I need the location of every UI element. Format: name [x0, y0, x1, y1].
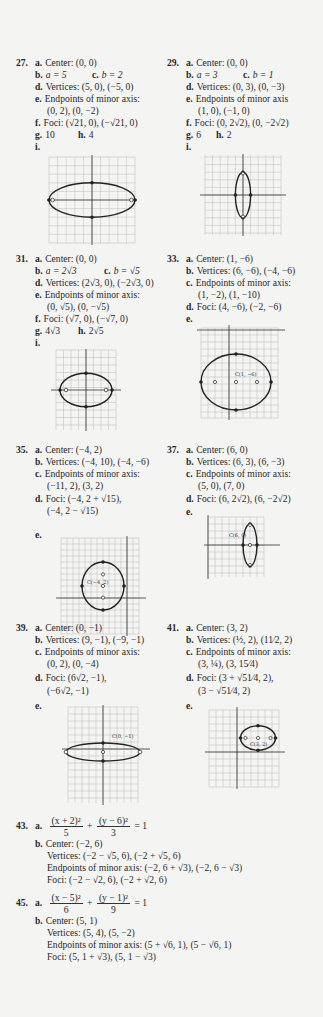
- problem-number: 33.: [167, 253, 179, 265]
- part-d-second: (−6√2, −1): [47, 685, 89, 697]
- part-h: h.4: [78, 129, 94, 141]
- problem-number: 27.: [16, 57, 28, 69]
- vertices: Vertices: (−2 − √5, 6), (−2 + √5, 6): [47, 850, 181, 862]
- part-f: f.Foci: (√7, 0), (−√7, 0): [35, 313, 128, 325]
- part-d: d.Vertices: (5, 0), (−5, 0): [35, 81, 133, 93]
- part-b: b.Vertices: (−4, 10), (−4, −6): [35, 456, 149, 468]
- minor-axis-endpoints: Endpoints of minor axis: (5 + √6, 1), (5…: [47, 939, 231, 951]
- part-a: a.Center: (0, −1): [35, 622, 102, 634]
- part-e: e.: [186, 700, 196, 712]
- part-d: d.Vertices: (2√3, 0), (−2√3, 0): [35, 277, 154, 289]
- problem-43: 43. a. (x + 2)²5 + (y − 6)²3 = 1 b.Cente…: [16, 815, 316, 895]
- svg-text:C(1, −6): C(1, −6): [235, 371, 257, 377]
- problem-31: 31. a.Center: (0, 0) b.a = 2√3 c.b = √5 …: [16, 253, 166, 443]
- part-c: c.Endpoints of minor axis:: [186, 468, 291, 480]
- part-d: d.Foci: (6√2, −1),: [35, 672, 107, 684]
- part-e: e.: [35, 529, 45, 541]
- fraction-y: (y − 6)²3: [97, 815, 130, 838]
- problem-number: 45.: [16, 897, 28, 909]
- fraction-y: (y − 1)²9: [97, 892, 130, 915]
- problem-33: 33. a.Center: (1, −6) b.Vertices: (6, −6…: [167, 253, 323, 443]
- part-c: c.Endpoints of minor axis:: [35, 468, 140, 480]
- part-b: b.Vertices: (6, 3), (6, −3): [186, 456, 284, 468]
- ellipse-graph-33: C(1, −6): [197, 325, 287, 420]
- problem-number: 31.: [16, 253, 28, 265]
- part-b: b.Center: (−2, 6): [35, 838, 103, 850]
- part-d: d.Vertices: (0, 3), (0, −3): [186, 81, 284, 93]
- problem-29: 29. a.Center: (0, 0) b.a = 3 c.b = 1 d.V…: [167, 57, 323, 267]
- part-b: b.a = 3: [186, 69, 218, 81]
- part-a: a.Center: (6, 0): [186, 444, 248, 456]
- part-a: a.Center: (0, 0): [35, 253, 97, 265]
- foci: Foci: (−2 − √2, 6), (−2 + √2, 6): [47, 874, 167, 886]
- fraction-x: (x − 5)²6: [50, 892, 83, 915]
- part-d-second: (3 − √51⁄4, 2): [198, 685, 250, 697]
- part-e: e.Endpoints of minor axis:: [35, 289, 140, 301]
- part-c: c.Endpoints of minor axis:: [186, 646, 291, 658]
- part-a-equation: a. (x + 2)²5 + (y − 6)²3 = 1: [35, 815, 147, 838]
- part-c: c.b = 2: [92, 69, 123, 81]
- ellipse-graph-31: [51, 349, 121, 431]
- foci: Foci: (5, 1 + √3), (5, 1 − √3): [47, 951, 156, 963]
- problem-39: 39. a.Center: (0, −1) b.Vertices: (9, −1…: [16, 622, 166, 822]
- part-d: d.Foci: (−4, 2 + √15),: [35, 493, 122, 505]
- part-i: i.: [186, 141, 194, 153]
- problem-45: 45. a. (x − 5)²6 + (y − 1)²9 = 1 b.Cente…: [16, 892, 316, 972]
- ellipse-graph-27: [46, 154, 138, 246]
- part-e: e.: [35, 700, 45, 712]
- part-a: a.Center: (−4, 2): [35, 444, 102, 456]
- part-b: b.Vertices: (6, −6), (−4, −6): [186, 265, 295, 277]
- part-d: d.Foci: (6, 2√2), (6, −2√2): [186, 493, 291, 505]
- part-e: e.: [186, 506, 196, 518]
- part-e: e.Endpoints of minor axis: [186, 93, 288, 105]
- problem-number: 39.: [16, 622, 28, 634]
- vertices: Vertices: (5, 4), (5, −2): [47, 927, 135, 939]
- problem-41: 41. a.Center: (3, 2) b.Vertices: (½, 2),…: [167, 622, 323, 822]
- part-c-values: (3, ¼), (3, 15⁄4): [198, 658, 258, 670]
- part-b: b.a = 2√3: [35, 265, 77, 277]
- svg-text:C(−4, 2): C(−4, 2): [87, 579, 109, 585]
- part-a: a.Center: (3, 2): [186, 622, 248, 634]
- problem-35: 35. a.Center: (−4, 2) b.Vertices: (−4, 1…: [16, 444, 166, 634]
- part-f: f.Foci: (0, 2√2), (0, −2√2): [186, 117, 289, 129]
- part-d: d.Foci: (3 + √51⁄4, 2),: [186, 672, 274, 684]
- part-c-values: (−11, 2), (3, 2): [47, 480, 103, 492]
- svg-text:C(3, 2): C(3, 2): [250, 741, 267, 747]
- ellipse-graph-39: C(0, −1): [54, 705, 154, 805]
- fraction-x: (x + 2)²5: [50, 815, 83, 838]
- part-c: c.Endpoints of minor axis:: [35, 646, 140, 658]
- part-e-values: (1, 0), (−1, 0): [198, 105, 250, 117]
- ellipse-graph-29: [200, 154, 286, 236]
- part-g: g.4√3: [35, 325, 60, 337]
- part-a: a.Center: (0, 0): [186, 57, 248, 69]
- part-b: b.Vertices: (½, 2), (11⁄2, 2): [186, 634, 292, 646]
- part-e: e.: [186, 313, 196, 325]
- minor-axis-endpoints: Endpoints of minor axis: (−2, 6 + √3), (…: [47, 862, 242, 874]
- part-c-values: (5, 0), (7, 0): [198, 480, 244, 492]
- part-c: c.b = 1: [243, 69, 274, 81]
- svg-text:C(0, −1): C(0, −1): [112, 733, 134, 739]
- problem-number: 43.: [16, 820, 28, 832]
- part-d: d.Foci: (4, −6), (−2, −6): [186, 301, 281, 313]
- ellipse-graph-35: C(−4, 2): [51, 536, 151, 636]
- problem-number: 41.: [167, 622, 179, 634]
- part-e: e.Endpoints of minor axis:: [35, 93, 140, 105]
- problem-number: 35.: [16, 444, 28, 456]
- part-g: g.6: [186, 129, 201, 141]
- part-i: i.: [35, 141, 43, 153]
- part-b: b.Center: (5, 1): [35, 915, 97, 927]
- part-e-values: (0, 2), (0, −2): [47, 105, 99, 117]
- ellipse-graph-37: C(6, 0): [204, 515, 288, 579]
- part-a-equation: a. (x − 5)²6 + (y − 1)²9 = 1: [35, 892, 147, 915]
- part-c-values: (1, −2), (1, −10): [198, 289, 260, 301]
- part-b: b.Vertices: (9, −1), (−9, −1): [35, 634, 144, 646]
- part-c: c.Endpoints of minor axis:: [186, 277, 291, 289]
- part-f: f.Foci: (√21, 0), (−√21, 0): [35, 117, 138, 129]
- problem-number: 29.: [167, 57, 179, 69]
- part-h: h.2√5: [78, 325, 104, 337]
- ellipse-graph-41: C(3, 2): [205, 707, 289, 789]
- part-d-second: (−4, 2 − √15): [47, 505, 98, 517]
- part-h: h.2: [216, 129, 232, 141]
- svg-text:C(6, 0): C(6, 0): [229, 532, 246, 538]
- part-g: g.10: [35, 129, 55, 141]
